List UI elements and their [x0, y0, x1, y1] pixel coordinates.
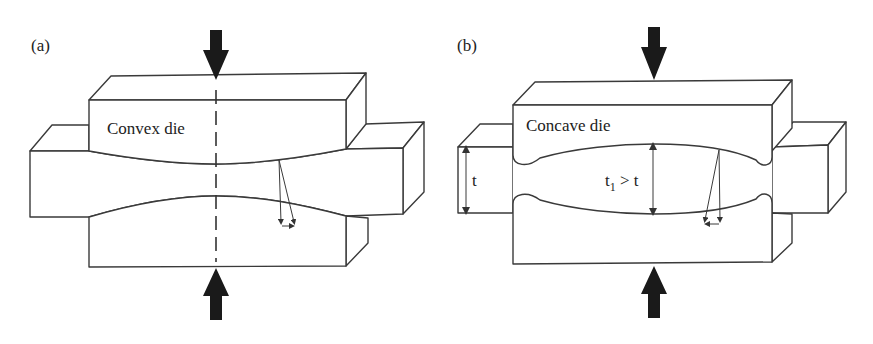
arrow-down-icon — [641, 27, 667, 80]
panel-b-label: (b) — [457, 36, 477, 55]
convex-die-label: Convex die — [107, 119, 185, 138]
arrow-down-icon — [203, 30, 229, 80]
panel-b: (b) Concave die t — [457, 27, 846, 318]
panel-a: (a) Convex die — [30, 30, 424, 320]
die-forging-diagram: (a) Convex die — [0, 0, 873, 344]
panel-a-label: (a) — [31, 36, 50, 55]
arrow-up-icon — [641, 266, 667, 318]
upper-die-a: Convex die — [89, 73, 366, 164]
arrow-up-icon — [203, 268, 229, 320]
concave-die-label: Concave die — [526, 116, 611, 135]
dimension-t-label: t — [472, 171, 477, 190]
